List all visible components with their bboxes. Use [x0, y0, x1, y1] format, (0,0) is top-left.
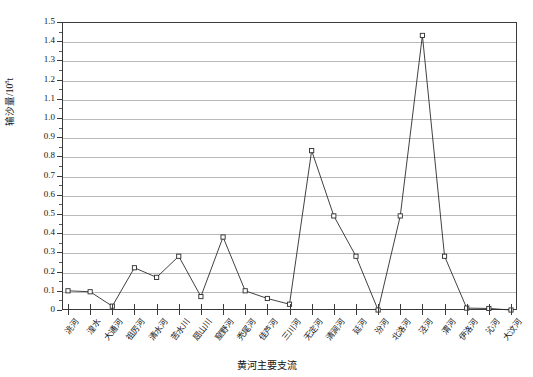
y-axis-label: 0.6: [27, 190, 55, 199]
x-axis-inner-tick: [511, 304, 512, 310]
data-series: [62, 22, 517, 310]
y-axis-label: 1.3: [27, 55, 55, 64]
y-axis-label: 0.7: [27, 171, 55, 180]
x-axis-inner-tick: [223, 304, 224, 310]
x-axis-title: 黄河主要支流: [0, 357, 533, 372]
x-axis-tick: [334, 310, 335, 315]
x-axis-inner-tick: [267, 304, 268, 310]
data-point-marker: [398, 214, 402, 218]
x-axis-tick: [467, 310, 468, 315]
x-axis-inner-tick: [312, 304, 313, 310]
x-axis-inner-tick: [245, 304, 246, 310]
x-axis-inner-tick: [378, 304, 379, 310]
x-axis-inner-tick: [90, 304, 91, 310]
y-axis-label: 0.8: [27, 151, 55, 160]
x-axis-tick: [201, 310, 202, 315]
data-point-marker: [332, 214, 336, 218]
x-axis-tick: [90, 310, 91, 315]
x-axis-tick: [356, 310, 357, 315]
x-axis-inner-tick: [134, 304, 135, 310]
y-axis-label: 0.3: [27, 247, 55, 256]
data-point-marker: [66, 289, 70, 293]
x-axis-tick: [245, 310, 246, 315]
data-point-marker: [199, 294, 203, 298]
x-axis-tick: [157, 310, 158, 315]
data-point-marker: [155, 275, 159, 279]
x-axis-tick: [179, 310, 180, 315]
data-point-marker: [177, 254, 181, 258]
y-axis-label: 1.5: [27, 17, 55, 26]
y-axis-title-unit: t: [5, 78, 15, 81]
x-axis-inner-tick: [489, 304, 490, 310]
x-axis-tick: [112, 310, 113, 315]
data-point-marker: [442, 254, 446, 258]
x-axis-inner-tick: [467, 304, 468, 310]
x-axis-inner-tick: [400, 304, 401, 310]
y-axis-label: 0.5: [27, 209, 55, 218]
data-point-marker: [310, 149, 314, 153]
x-axis-tick: [489, 310, 490, 315]
x-axis-inner-tick: [157, 304, 158, 310]
data-point-marker: [221, 235, 225, 239]
y-axis-label: 0.9: [27, 132, 55, 141]
data-point-marker: [265, 296, 269, 300]
data-point-marker: [88, 290, 92, 294]
y-axis-label: 1.0: [27, 113, 55, 122]
y-axis-label: 0.4: [27, 228, 55, 237]
x-axis-inner-tick: [201, 304, 202, 310]
y-axis-label: 0.1: [27, 286, 55, 295]
x-axis-tick: [378, 310, 379, 315]
x-axis-tick: [312, 310, 313, 315]
y-axis-tick: [57, 310, 62, 311]
x-axis-inner-tick: [422, 304, 423, 310]
chart-figure: 输沙量/108t 00.10.20.30.40.50.60.70.80.91.0…: [0, 0, 533, 377]
x-axis-inner-tick: [179, 304, 180, 310]
x-axis-tick: [511, 310, 512, 315]
data-point-marker: [354, 254, 358, 258]
data-point-marker: [420, 33, 424, 37]
x-axis-inner-tick: [112, 304, 113, 310]
x-axis-tick: [223, 310, 224, 315]
x-axis-inner-tick: [68, 304, 69, 310]
y-axis-label: 0.2: [27, 267, 55, 276]
x-axis-tick: [445, 310, 446, 315]
data-point-marker: [132, 266, 136, 270]
data-point-marker: [243, 289, 247, 293]
y-axis-title: 输沙量/108t: [2, 6, 20, 126]
y-axis-label: 0: [27, 305, 55, 314]
x-axis-inner-tick: [290, 304, 291, 310]
x-axis-tick: [400, 310, 401, 315]
x-axis-inner-tick: [445, 304, 446, 310]
x-axis-tick: [422, 310, 423, 315]
x-axis-tick: [68, 310, 69, 315]
y-axis-label: 1.1: [27, 94, 55, 103]
x-axis-inner-tick: [334, 304, 335, 310]
x-axis-tick: [134, 310, 135, 315]
x-axis-tick: [267, 310, 268, 315]
y-axis-label: 1.2: [27, 75, 55, 84]
y-axis-title-text: 输沙量/10: [5, 84, 15, 126]
x-axis-tick: [290, 310, 291, 315]
y-axis-title-exponent: 8: [3, 81, 10, 84]
x-axis-inner-tick: [356, 304, 357, 310]
y-axis-label: 1.4: [27, 36, 55, 45]
